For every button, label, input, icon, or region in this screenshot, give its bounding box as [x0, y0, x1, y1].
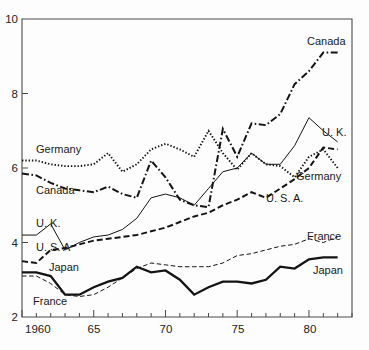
- y-axis-ticks: [22, 94, 28, 243]
- x-tick-label-70: 70: [160, 323, 173, 335]
- series-label-canada-left: Canada: [36, 184, 75, 196]
- x-tick-label-65: 65: [88, 323, 101, 335]
- series-label-germany-left: Germany: [36, 143, 82, 155]
- x-tick-label-1960: 1960: [25, 323, 51, 335]
- series-label-japan-left: Japan: [49, 261, 79, 273]
- y-tick-label-2: 2: [12, 311, 18, 323]
- line-chart-figure: 10 8 6 4 2 1960 65 70 75 80 Germany Cana…: [0, 0, 369, 350]
- x-axis-tick-labels: 1960 65 70 75 80: [25, 323, 316, 335]
- chart-canvas: 10 8 6 4 2 1960 65 70 75 80 Germany Cana…: [0, 0, 369, 350]
- series-label-france-right: France: [307, 230, 341, 242]
- x-axis-ticks: [22, 310, 352, 317]
- series-label-japan-right: Japan: [313, 264, 343, 276]
- y-tick-label-10: 10: [5, 13, 18, 25]
- y-axis-tick-labels: 10 8 6 4 2: [5, 13, 18, 323]
- y-tick-label-4: 4: [12, 237, 19, 249]
- series-label-usa-left: U. S. A: [36, 241, 71, 253]
- series-label-germany-right: Germany: [296, 170, 342, 182]
- y-tick-label-6: 6: [12, 162, 18, 174]
- x-tick-label-80: 80: [304, 323, 317, 335]
- data-series-group: [22, 53, 338, 297]
- series-label-canada-right: Canada: [307, 35, 346, 47]
- series-label-france-left: France: [33, 295, 67, 307]
- series-label-usa-right: U. S. A.: [266, 192, 303, 204]
- series-label-uk-left: U. K.: [36, 217, 60, 229]
- x-tick-label-75: 75: [232, 323, 245, 335]
- y-tick-label-8: 8: [12, 88, 18, 100]
- series-label-uk-right: U. K.: [322, 126, 346, 138]
